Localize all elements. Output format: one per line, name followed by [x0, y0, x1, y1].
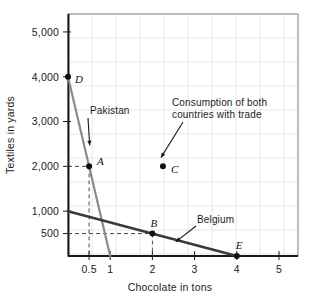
- consumption-annotation-line1: Consumption of both: [172, 97, 267, 108]
- data-point-c: [160, 163, 166, 169]
- x-tick-label: 1: [107, 263, 113, 275]
- y-tick-label: 3,000: [32, 115, 59, 127]
- y-axis-title: Textiles in yards: [4, 96, 16, 174]
- data-point-a: [86, 163, 92, 169]
- data-point-e: [234, 253, 240, 259]
- point-label-a: A: [96, 155, 104, 167]
- economics-ppf-chart: 5001,0002,0003,0004,0005,000 0.512345 DA…: [0, 0, 310, 299]
- x-axis-title: Chocolate in tons: [128, 281, 213, 293]
- x-tick-label: 2: [149, 263, 155, 275]
- x-tick-label: 5: [276, 263, 282, 275]
- y-tick-label: 5,000: [32, 26, 59, 38]
- x-tick-label: 4: [234, 263, 240, 275]
- point-label-d: D: [74, 73, 83, 85]
- y-tick-label: 500: [41, 227, 59, 239]
- x-tick-label: 3: [192, 263, 198, 275]
- belgium-annotation-label: Belgium: [197, 214, 234, 225]
- pakistan-annotation-label: Pakistan: [90, 105, 130, 116]
- y-tick-label: 4,000: [32, 71, 59, 83]
- chart-container: 5001,0002,0003,0004,0005,000 0.512345 DA…: [0, 0, 310, 299]
- point-label-c: C: [171, 163, 179, 175]
- y-axis-tick-labels: 5001,0002,0003,0004,0005,000: [32, 26, 59, 240]
- consumption-annotation-line2: countries with trade: [172, 109, 262, 120]
- x-tick-label: 0.5: [81, 263, 96, 275]
- point-label-b: B: [150, 217, 157, 229]
- x-axis-tick-labels: 0.512345: [81, 263, 282, 275]
- y-tick-label: 2,000: [32, 160, 59, 172]
- point-label-e: E: [235, 239, 243, 251]
- y-tick-label: 1,000: [32, 205, 59, 217]
- data-point-b: [149, 231, 155, 237]
- data-point-d: [65, 74, 71, 80]
